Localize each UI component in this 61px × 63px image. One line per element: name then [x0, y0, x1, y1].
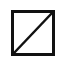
no-fill-icon	[11, 10, 55, 56]
no-fill-swatch-button[interactable]	[11, 10, 55, 56]
